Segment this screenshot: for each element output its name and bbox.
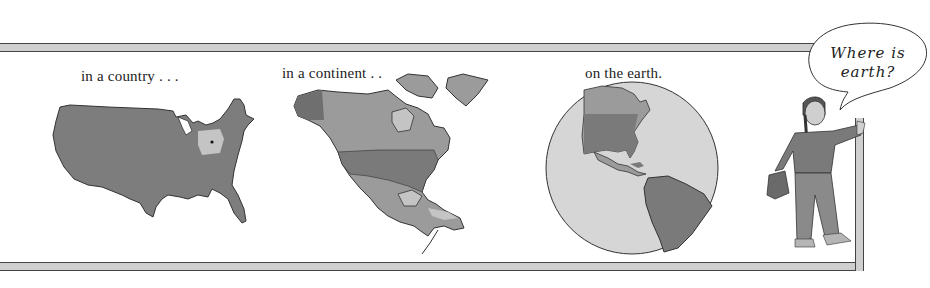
- bottom-frame-band: [0, 262, 864, 271]
- speech-bubble-text: Where is earth?: [818, 44, 918, 82]
- person-figure: [765, 95, 865, 255]
- globe-americas: [542, 80, 722, 256]
- speech-line-1: Where is: [818, 44, 918, 63]
- top-frame-band: [0, 43, 830, 52]
- caption-country: in a country . . .: [81, 68, 179, 85]
- speech-line-2: earth?: [818, 63, 918, 82]
- north-america-map: [288, 68, 518, 258]
- usa-map: [48, 95, 258, 230]
